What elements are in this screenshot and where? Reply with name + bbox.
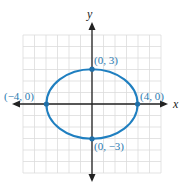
label-top: (0, 3)	[94, 54, 118, 67]
label-left: (−4, 0)	[4, 90, 34, 103]
ellipse-graph: x y (0, 3) (4, 0) (0, −3) (−4, 0)	[0, 0, 186, 183]
y-axis-arrow-up-icon	[89, 22, 96, 30]
label-right: (4, 0)	[140, 90, 164, 103]
y-axis-arrow-down-icon	[89, 174, 96, 182]
point-right	[135, 101, 140, 106]
point-left	[44, 101, 49, 106]
x-axis-label: x	[172, 97, 179, 111]
y-axis-label: y	[86, 7, 93, 21]
point-top	[89, 67, 94, 72]
label-bottom: (0, −3)	[94, 140, 124, 153]
